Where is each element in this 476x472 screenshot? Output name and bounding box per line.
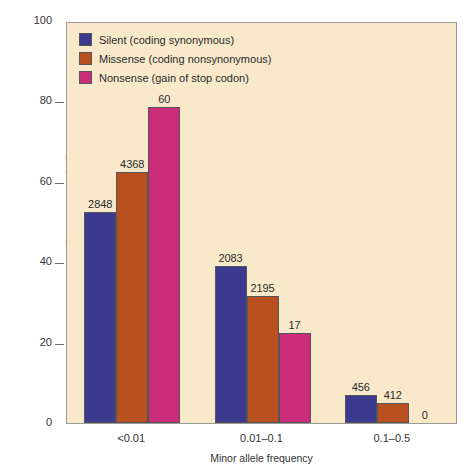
y-axis-tick-label: 40 [40,255,52,267]
bar-value-label: 0 [401,409,449,421]
bar[interactable] [116,172,148,423]
legend-item-label: Nonsense (gain of stop codon) [99,72,249,84]
y-axis-tick-label: 60 [40,175,52,187]
y-axis-tick: 60 [0,183,66,184]
y-axis-tick-label: 20 [40,336,52,348]
legend-item[interactable]: Nonsense (gain of stop codon) [79,69,271,86]
legend-color-swatch [79,71,92,84]
bar[interactable] [279,333,311,423]
chart-figure: Percentage of SNPs 020406080100 28484368… [0,0,476,472]
y-axis-tick-mark [55,102,64,103]
bar[interactable] [84,212,116,423]
legend-color-swatch [79,52,92,65]
x-axis-tick-label: 0.1–0.5 [332,432,452,444]
bar-value-label: 412 [369,389,417,401]
legend-item-label: Silent (coding synonymous) [99,34,234,46]
y-axis-tick: 0 [0,424,66,425]
y-axis-tick: 100 [0,22,66,23]
bar-value-label: 60 [140,93,188,105]
legend-item[interactable]: Silent (coding synonymous) [79,31,271,48]
y-axis-tick-mark [55,263,64,264]
y-axis-tick-mark [55,183,64,184]
bar-value-label: 2195 [239,282,287,294]
y-axis-tick: 40 [0,263,66,264]
x-axis-tick-label: 0.01–0.1 [202,432,322,444]
x-axis-title: Minor allele frequency [66,452,457,464]
y-axis-tick-mark [55,344,64,345]
y-axis-tick-label: 0 [46,416,52,428]
y-axis-tick-label: 100 [34,14,52,26]
legend-item-label: Missense (coding nonsynonymous) [99,53,271,65]
legend-color-swatch [79,33,92,46]
bar-value-label: 2083 [207,252,255,264]
plot-area: 284843686020832195174564120 Silent (codi… [66,22,457,424]
legend-item[interactable]: Missense (coding nonsynonymous) [79,50,271,67]
y-axis-tick: 80 [0,102,66,103]
bar[interactable] [247,296,279,423]
y-axis-tick-label: 80 [40,94,52,106]
bar[interactable] [148,107,180,423]
x-axis-tick-label: <0.01 [71,432,191,444]
bar-value-label: 17 [271,319,319,331]
y-axis-tick: 20 [0,344,66,345]
chart-legend: Silent (coding synonymous)Missense (codi… [79,31,271,88]
